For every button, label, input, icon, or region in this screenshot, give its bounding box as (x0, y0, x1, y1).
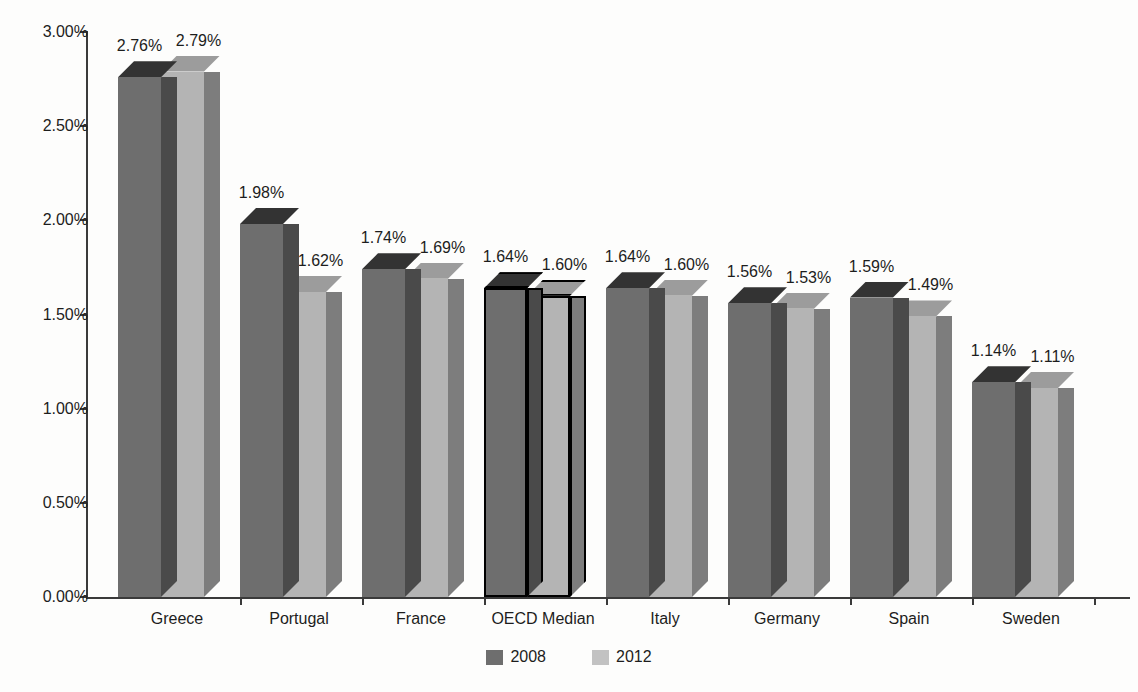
x-axis-tick-mark (240, 597, 242, 605)
bar-side-face (405, 269, 421, 597)
bar-front-face (972, 382, 1015, 597)
plot-area: 0.00%0.50%1.00%1.50%2.00%2.50%3.00% 2.76… (0, 0, 1138, 692)
y-axis-tick-label: 1.50% (20, 306, 88, 324)
x-axis-category-label: Greece (106, 610, 248, 628)
bar-side-face (161, 77, 177, 597)
bar-value-label: 2.79% (164, 32, 234, 50)
x-axis-tick-mark (850, 597, 852, 605)
bar-value-label: 1.60% (530, 256, 600, 274)
x-axis-tick-mark (484, 597, 486, 605)
x-axis-category-label: France (350, 610, 492, 628)
x-axis-category-label: Sweden (960, 610, 1102, 628)
bar-value-label: 1.49% (896, 276, 966, 294)
bar-side-face (1015, 382, 1031, 597)
bar-top-face (484, 272, 543, 288)
bar-top-face (240, 208, 299, 224)
x-axis-category-label: OECD Median (472, 610, 614, 628)
bar-side-face (771, 303, 787, 597)
x-axis-category-label: Germany (716, 610, 858, 628)
light-gray-swatch (592, 650, 609, 665)
bar-value-label: 1.98% (227, 184, 297, 202)
chart-page: 0.00%0.50%1.00%1.50%2.00%2.50%3.00% 2.76… (0, 0, 1138, 692)
x-axis-category-label: Italy (594, 610, 736, 628)
x-axis-tick-mark (1094, 597, 1096, 605)
x-axis-category-label: Portugal (228, 610, 370, 628)
bar-front-face (362, 269, 405, 597)
y-axis-tick-label: 3.00% (20, 23, 88, 41)
y-axis-tick-label: 2.50% (20, 117, 88, 135)
x-axis-tick-mark (972, 597, 974, 605)
x-axis-tick-mark (362, 597, 364, 605)
bar-front-face (728, 303, 771, 597)
bar-2008-italy[interactable] (606, 288, 649, 597)
bar-side-face (570, 296, 586, 597)
bar-2008-sweden[interactable] (972, 382, 1015, 597)
bar-top-face (362, 253, 421, 269)
legend-label: 2012 (616, 648, 652, 666)
bar-2008-spain[interactable] (850, 298, 893, 597)
bar-front-face (118, 77, 161, 597)
bar-side-face (527, 288, 543, 597)
bar-side-face (814, 309, 830, 597)
dark-gray-swatch (486, 650, 503, 665)
y-axis-tick-label: 0.00% (20, 588, 88, 606)
bar-side-face (1058, 388, 1074, 597)
bar-2008-portugal[interactable] (240, 224, 283, 597)
bar-front-face (606, 288, 649, 597)
bar-value-label: 1.59% (837, 258, 907, 276)
bar-2008-oecd-median[interactable] (484, 288, 527, 597)
bar-top-face (606, 272, 665, 288)
x-axis-tick-mark (728, 597, 730, 605)
y-axis-tick-label: 2.00% (20, 211, 88, 229)
bar-value-label: 1.53% (774, 269, 844, 287)
bar-value-label: 1.60% (652, 256, 722, 274)
x-axis-tick-mark (606, 597, 608, 605)
bar-side-face (326, 292, 342, 597)
legend-label: 2008 (510, 648, 546, 666)
chart-legend: 20082012 (0, 648, 1138, 666)
bar-side-face (204, 72, 220, 597)
bar-front-face (850, 298, 893, 597)
y-axis-tick-label: 1.00% (20, 400, 88, 418)
bar-2008-germany[interactable] (728, 303, 771, 597)
legend-item-2008[interactable]: 2008 (486, 648, 546, 666)
bar-value-label: 1.11% (1018, 348, 1088, 366)
bar-side-face (649, 288, 665, 597)
bar-top-face (850, 282, 909, 298)
bar-top-face (972, 366, 1031, 382)
bar-side-face (936, 316, 952, 597)
y-axis-tick-label: 0.50% (20, 494, 88, 512)
legend-item-2012[interactable]: 2012 (592, 648, 652, 666)
bar-front-face (240, 224, 283, 597)
bar-2008-greece[interactable] (118, 77, 161, 597)
bar-side-face (692, 296, 708, 597)
bar-side-face (283, 224, 299, 597)
bar-top-face (728, 287, 787, 303)
bar-2008-france[interactable] (362, 269, 405, 597)
bar-side-face (448, 279, 464, 597)
bar-side-face (893, 298, 909, 597)
x-axis-category-label: Spain (838, 610, 980, 628)
bar-front-face (484, 288, 527, 597)
